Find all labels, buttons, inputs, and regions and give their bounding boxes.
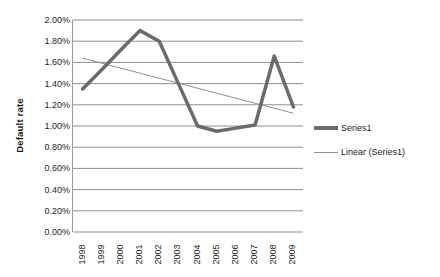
- y-axis-tick-label: 0.60%: [28, 164, 70, 173]
- y-axis-tick-label: 2.00%: [28, 16, 70, 25]
- y-axis-tick-label: 1.40%: [28, 79, 70, 88]
- x-axis-tick-label: 2009: [272, 234, 312, 274]
- y-axis-tick-label: 0.80%: [28, 143, 70, 152]
- y-axis-tick-label: 1.00%: [28, 122, 70, 131]
- thick-line-swatch: [313, 126, 339, 130]
- y-axis-tick-label: 0.20%: [28, 206, 70, 215]
- plot-svg: [73, 20, 303, 232]
- plot-area: [72, 20, 302, 232]
- data-line-series1: [83, 31, 294, 132]
- legend-item-label: Linear (Series1): [339, 147, 405, 157]
- gridlines: [73, 20, 303, 232]
- y-axis-tick-label: 0.40%: [28, 185, 70, 194]
- x-axis-tick-label-text: 2009: [288, 244, 297, 264]
- legend-item[interactable]: Linear (Series1): [313, 140, 437, 164]
- y-axis-title-text: Default rate: [14, 98, 25, 153]
- y-axis-tick-labels: 2.00%1.80%1.60%1.40%1.20%1.00%0.80%0.60%…: [28, 20, 70, 232]
- legend-item[interactable]: Series1: [313, 116, 437, 140]
- y-axis-tick-label: 1.20%: [28, 100, 70, 109]
- chart-container: Default rate 2.00%1.80%1.60%1.40%1.20%1.…: [0, 0, 440, 277]
- chart-legend: Series1Linear (Series1): [313, 116, 437, 164]
- legend-item-label: Series1: [339, 123, 372, 133]
- y-axis-tick-label: 1.80%: [28, 37, 70, 46]
- y-axis-tick-label: 1.60%: [28, 58, 70, 67]
- x-axis-tick-labels: 1998199920002001200220032004200520062007…: [72, 234, 302, 277]
- thin-line-swatch: [313, 152, 339, 153]
